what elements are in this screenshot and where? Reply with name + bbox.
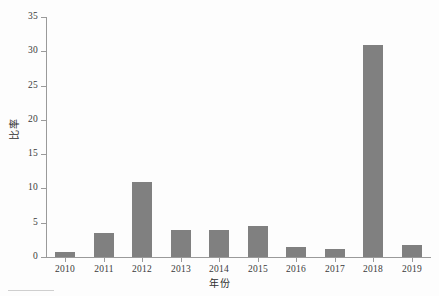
bar (248, 226, 268, 257)
bar (286, 247, 306, 257)
caption-rule (8, 290, 54, 291)
bar-chart-figure: 比率 05101520253035 2010201120122013201420… (0, 0, 439, 296)
bar (55, 252, 75, 257)
bar (94, 233, 114, 257)
bar (209, 230, 229, 257)
bar (402, 245, 422, 257)
bar (325, 249, 345, 257)
bar (363, 45, 383, 257)
bar (132, 182, 152, 257)
bar (171, 230, 191, 257)
bars-layer (0, 0, 439, 296)
